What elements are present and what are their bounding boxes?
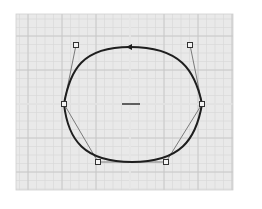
left-anchor-point[interactable] xyxy=(62,102,67,107)
bottom-right-handle-point[interactable] xyxy=(164,160,169,165)
bottom-left-handle-point[interactable] xyxy=(96,160,101,165)
bezier-editor-canvas[interactable] xyxy=(0,0,262,209)
right-anchor-point[interactable] xyxy=(200,102,205,107)
top-right-handle-point[interactable] xyxy=(188,43,193,48)
top-left-handle-point[interactable] xyxy=(74,43,79,48)
